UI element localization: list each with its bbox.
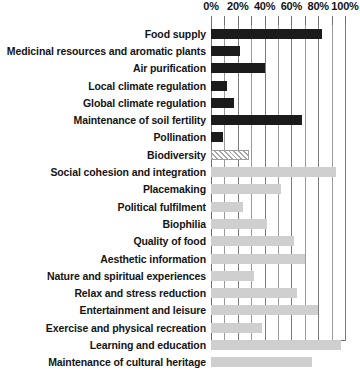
chart-rows: Food supplyMedicinal resources and aroma… xyxy=(0,25,360,371)
bar-track xyxy=(211,284,345,301)
category-label: Local climate regulation xyxy=(88,80,206,92)
category-label: Aesthetic information xyxy=(100,253,206,265)
chart-row: Food supply xyxy=(0,25,360,42)
x-tick-label: 20% xyxy=(227,0,248,12)
category-label: Food supply xyxy=(145,28,206,40)
chart-row: Learning and education xyxy=(0,336,360,353)
category-label: Quality of food xyxy=(133,235,206,247)
chart-row: Maintenance of soil fertility xyxy=(0,111,360,128)
x-tick-label: 0% xyxy=(203,0,219,12)
x-tick-label: 60% xyxy=(281,0,302,12)
chart-row: Aesthetic information xyxy=(0,250,360,267)
category-label: Nature and spiritual experiences xyxy=(47,270,206,282)
category-label: Maintenance of cultural heritage xyxy=(48,356,206,368)
category-label: Medicinal resources and aromatic plants xyxy=(7,45,206,57)
bar-track xyxy=(211,60,345,77)
chart-row: Local climate regulation xyxy=(0,77,360,94)
bar xyxy=(211,305,318,315)
category-label: Entertainment and leisure xyxy=(80,304,206,316)
bar xyxy=(211,236,294,246)
bar-track xyxy=(211,129,345,146)
bar-track xyxy=(211,146,345,163)
x-tick-mark xyxy=(278,16,279,25)
bar-track xyxy=(211,111,345,128)
category-label: Political fulfilment xyxy=(118,201,206,213)
category-label: Social cohesion and integration xyxy=(50,166,206,178)
category-label: Placemaking xyxy=(143,183,206,195)
category-label: Pollination xyxy=(153,131,206,143)
bar xyxy=(211,288,297,298)
bar xyxy=(211,132,223,142)
x-tick-label: 100% xyxy=(331,0,358,12)
x-axis-tick-marks xyxy=(211,16,345,25)
chart-row: Nature and spiritual experiences xyxy=(0,267,360,284)
bar xyxy=(211,167,336,177)
x-tick-mark xyxy=(224,16,225,25)
category-label: Biodiversity xyxy=(147,149,206,161)
chart-row: Biodiversity xyxy=(0,146,360,163)
bar-track xyxy=(211,94,345,111)
bar-track xyxy=(211,319,345,336)
bar-track xyxy=(211,250,345,267)
category-label: Air purification xyxy=(133,62,206,74)
bar xyxy=(211,150,249,160)
category-label: Exercise and physical recreation xyxy=(46,322,206,334)
bar xyxy=(211,98,234,108)
bar-track xyxy=(211,42,345,59)
chart-row: Biophilia xyxy=(0,215,360,232)
bar-track xyxy=(211,25,345,42)
bar-track xyxy=(211,215,345,232)
x-tick-mark xyxy=(238,16,239,25)
chart-row: Exercise and physical recreation xyxy=(0,319,360,336)
bar xyxy=(211,63,265,73)
bar-track xyxy=(211,198,345,215)
chart-row: Medicinal resources and aromatic plants xyxy=(0,42,360,59)
x-tick-label: 40% xyxy=(254,0,275,12)
bar-track xyxy=(211,77,345,94)
chart-row: Air purification xyxy=(0,60,360,77)
category-label: Learning and education xyxy=(90,339,206,351)
x-tick-mark xyxy=(305,16,306,25)
bar-track xyxy=(211,302,345,319)
chart-row: Pollination xyxy=(0,129,360,146)
bar xyxy=(211,271,254,281)
chart-row: Quality of food xyxy=(0,233,360,250)
bar xyxy=(211,357,312,367)
chart-row: Placemaking xyxy=(0,181,360,198)
bar-track xyxy=(211,354,345,371)
bar xyxy=(211,254,305,264)
bar xyxy=(211,115,302,125)
chart-row: Relax and stress reduction xyxy=(0,284,360,301)
x-tick-mark xyxy=(265,16,266,25)
bar-track xyxy=(211,233,345,250)
category-label: Biophilia xyxy=(163,218,206,230)
bar xyxy=(211,323,262,333)
bar xyxy=(211,340,341,350)
x-tick-mark xyxy=(251,16,252,25)
x-axis-tick-labels: 0%20%40%60%80%100% xyxy=(0,0,360,16)
chart-row: Political fulfilment xyxy=(0,198,360,215)
bar xyxy=(211,184,281,194)
bar-track xyxy=(211,267,345,284)
bar-track xyxy=(211,181,345,198)
category-label: Global climate regulation xyxy=(83,97,206,109)
bar xyxy=(211,29,322,39)
category-label: Maintenance of soil fertility xyxy=(74,114,206,126)
chart-row: Entertainment and leisure xyxy=(0,302,360,319)
x-tick-mark xyxy=(318,16,319,25)
x-tick-mark xyxy=(345,16,346,25)
chart-row: Social cohesion and integration xyxy=(0,163,360,180)
x-tick-label: 80% xyxy=(307,0,328,12)
chart-row: Global climate regulation xyxy=(0,94,360,111)
bar-track xyxy=(211,163,345,180)
category-label: Relax and stress reduction xyxy=(74,287,206,299)
x-tick-mark xyxy=(211,16,212,25)
bar-track xyxy=(211,336,345,353)
bar xyxy=(211,202,243,212)
bar xyxy=(211,46,240,56)
bar xyxy=(211,219,267,229)
bar xyxy=(211,81,227,91)
x-tick-mark xyxy=(291,16,292,25)
x-tick-mark xyxy=(332,16,333,25)
